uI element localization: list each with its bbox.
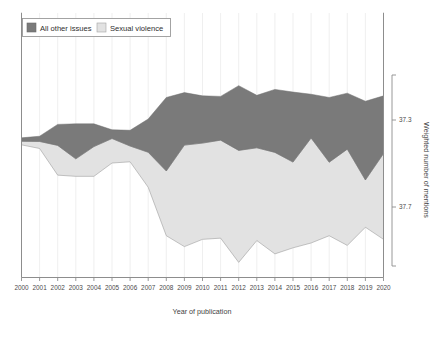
x-tick-label-2000: 2000: [14, 284, 29, 291]
x-tick-label-2009: 2009: [177, 284, 192, 291]
x-tick-label-2016: 2016: [304, 284, 319, 291]
x-tick-label-2017: 2017: [322, 284, 337, 291]
x-tick-label-2012: 2012: [232, 284, 247, 291]
x-tick-label-2014: 2014: [268, 284, 283, 291]
chart-container: 2000200120022003200420052006200720082009…: [0, 0, 435, 342]
x-tick-label-2001: 2001: [32, 284, 47, 291]
legend-swatch-sexual-violence: [97, 23, 106, 32]
x-tick-label-2002: 2002: [51, 284, 66, 291]
x-tick-label-2008: 2008: [159, 284, 174, 291]
x-tick-label-2003: 2003: [69, 284, 84, 291]
x-tick-label-2015: 2015: [286, 284, 301, 291]
legend-label-sexual-violence: Sexual violence: [110, 24, 163, 33]
x-tick-label-2019: 2019: [358, 284, 373, 291]
x-axis-title: Year of publication: [173, 307, 232, 316]
x-tick-label-2007: 2007: [141, 284, 156, 291]
legend-label-all-other-issues: All other issues: [40, 24, 92, 33]
x-tick-label-2018: 2018: [340, 284, 355, 291]
y-tick-label-1: 37.7: [399, 203, 412, 210]
y-axis-title: Weighted number of mentions: [422, 122, 431, 218]
x-tick-label-2006: 2006: [123, 284, 138, 291]
legend-swatch-all-other-issues: [27, 23, 36, 32]
x-tick-label-2011: 2011: [214, 284, 228, 291]
x-tick-label-2013: 2013: [250, 284, 265, 291]
x-tick-label-2004: 2004: [87, 284, 102, 291]
x-tick-label-2010: 2010: [195, 284, 210, 291]
y-tick-label-0: 37.3: [399, 116, 412, 123]
legend: All other issues Sexual violence: [23, 19, 171, 37]
streamgraph-chart: 2000200120022003200420052006200720082009…: [0, 0, 435, 342]
x-tick-label-2020: 2020: [376, 284, 391, 291]
x-tick-label-2005: 2005: [105, 284, 120, 291]
